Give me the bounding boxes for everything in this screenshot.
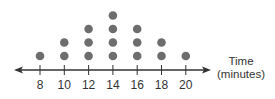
- data-dot: [133, 52, 142, 61]
- tick-label: 10: [58, 78, 72, 92]
- tick-label: 8: [37, 78, 44, 92]
- tick-label: 18: [155, 78, 169, 92]
- tick-label: 20: [179, 78, 193, 92]
- data-dot: [109, 11, 118, 20]
- data-dot: [133, 38, 142, 47]
- dot-plot: 8101214161820 Time (minutes): [0, 0, 275, 99]
- axis-title-line-1: Time: [228, 55, 253, 67]
- data-dot: [157, 52, 166, 61]
- tick-label: 12: [82, 78, 96, 92]
- tick-label: 14: [106, 78, 120, 92]
- data-dot: [60, 38, 69, 47]
- data-dot: [36, 52, 45, 61]
- data-dot: [60, 52, 69, 61]
- data-dot: [133, 25, 142, 34]
- data-dot: [182, 52, 191, 61]
- tick-label: 16: [131, 78, 145, 92]
- data-dot: [84, 52, 93, 61]
- dot-columns: [36, 11, 190, 60]
- data-dot: [84, 25, 93, 34]
- data-dot: [109, 52, 118, 61]
- data-dot: [157, 38, 166, 47]
- axis-title-line-2: (minutes): [217, 68, 265, 80]
- tick-labels: 8101214161820: [37, 78, 193, 92]
- data-dot: [109, 25, 118, 34]
- data-dot: [84, 38, 93, 47]
- data-dot: [109, 38, 118, 47]
